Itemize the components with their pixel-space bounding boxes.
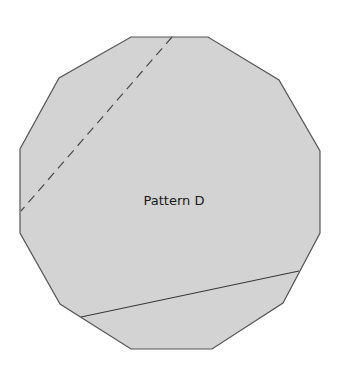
pattern-diagram: Pattern D — [0, 0, 340, 377]
pattern-label: Pattern D — [144, 193, 205, 208]
